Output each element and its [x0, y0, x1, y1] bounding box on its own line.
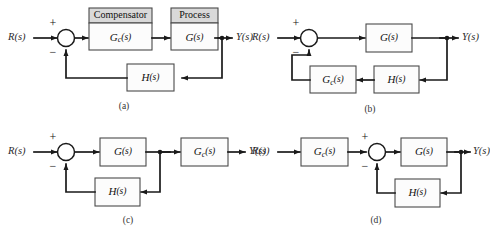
panel-c-feedback-wire-left [66, 164, 95, 192]
panel-a-h-block: H(s) [127, 64, 174, 91]
panel-b-output-label: Y(s) [462, 31, 479, 43]
panel-c-plus-sign: + [50, 130, 57, 144]
panel-d-plus-sign: + [362, 130, 369, 144]
panel-a-minus-sign: − [50, 45, 57, 59]
panel-b-plus-sign: + [293, 16, 300, 30]
panel-d: R(s) Gc(s) + − G(s) Y(s) H(s) [251, 130, 490, 226]
panel-d-minus-sign: − [362, 159, 369, 173]
panel-b-h-block: H(s) [374, 66, 419, 93]
panel-a-plus-sign: + [50, 16, 57, 30]
process-transfer-label: G(s) [186, 30, 204, 43]
panel-c-h-label: H(s) [108, 185, 127, 198]
panel-b-h-label: H(s) [387, 73, 406, 86]
panel-d-feedback-wire-left [377, 164, 395, 193]
panel-b-g-label: G(s) [380, 31, 398, 44]
panel-d-output-label: Y(s) [473, 145, 490, 157]
panel-d-h-label: H(s) [408, 186, 427, 199]
compensator-header-label: Compensator [94, 9, 148, 20]
panel-c-g-block: G(s) [100, 138, 146, 166]
panel-a-input-label: R(s) [7, 31, 26, 43]
panel-a-feedback-wire-left [66, 50, 127, 78]
panel-b: R(s) + − G(s) Y(s) H(s) Gc(s) [251, 16, 479, 115]
panel-c: R(s) + − G(s) Gc(s) Y(s) [7, 130, 266, 226]
panel-b-gc-block: Gc(s) [310, 66, 356, 93]
panel-c-input-label: R(s) [7, 145, 26, 157]
panel-a-caption: (a) [119, 101, 130, 112]
panel-a-process-block: Process G(s) [171, 8, 218, 50]
panel-a-summing-junction [58, 30, 75, 47]
panel-d-caption: (d) [370, 215, 381, 226]
panel-b-g-block: G(s) [366, 24, 412, 52]
block-diagram-figure: R(s) + − Compensator Gc(s) Process G(s) [0, 0, 490, 235]
panel-b-minus-sign: − [293, 45, 300, 59]
panel-b-caption: (b) [364, 104, 375, 115]
panel-b-input-label: R(s) [251, 31, 270, 43]
panel-a-output-label: Y(s) [236, 31, 253, 43]
panel-d-summing-junction [369, 144, 386, 161]
panel-d-g-label: G(s) [415, 145, 433, 158]
process-header-label: Process [179, 9, 210, 20]
panel-a: R(s) + − Compensator Gc(s) Process G(s) [7, 8, 253, 112]
panel-d-input-label: R(s) [251, 145, 270, 157]
panel-c-g-label: G(s) [114, 145, 132, 158]
panel-b-summing-junction [301, 30, 318, 47]
panel-c-h-block: H(s) [95, 178, 140, 206]
panel-b-feedback-wire-left [292, 50, 310, 80]
panel-c-caption: (c) [123, 215, 134, 226]
panel-d-h-block: H(s) [395, 179, 440, 207]
panel-b-feedback-wire-right [420, 38, 447, 80]
panel-d-g-block: G(s) [401, 138, 447, 166]
panel-c-summing-junction [58, 144, 75, 161]
panel-c-minus-sign: − [50, 159, 57, 173]
panel-a-compensator-block: Compensator Gc(s) [89, 8, 152, 50]
panel-d-gc-block: Gc(s) [301, 138, 348, 166]
panel-c-gc-block: Gc(s) [181, 138, 228, 166]
panel-a-h-label: H(s) [141, 71, 160, 84]
